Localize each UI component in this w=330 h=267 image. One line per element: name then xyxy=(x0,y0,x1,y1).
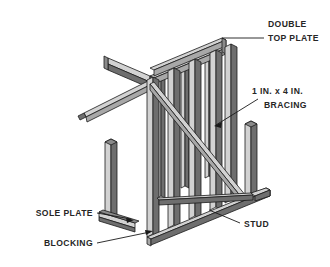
wall-framing-illustration: DOUBLE TOP PLATE 1 IN. x 4 IN. BRACING S… xyxy=(0,0,330,267)
right-return-stud xyxy=(245,121,257,196)
framing-diagram-container: DOUBLE TOP PLATE 1 IN. x 4 IN. BRACING S… xyxy=(0,0,330,267)
stud xyxy=(210,50,222,210)
left-return-stud xyxy=(105,139,117,217)
blocking-label: BLOCKING xyxy=(44,238,93,248)
sole-plate-left-end xyxy=(147,237,151,246)
stud-label: STUD xyxy=(244,219,269,229)
bracing-label-line2: BRACING xyxy=(264,100,307,110)
corner-post-stud xyxy=(147,77,159,237)
double-top-plate-label-line1: DOUBLE xyxy=(268,19,307,29)
sole-plate-label: SOLE PLATE xyxy=(36,208,93,218)
bracing-label-line1: 1 IN. x 4 IN. xyxy=(252,86,303,96)
double-top-plate-label-line2: TOP PLATE xyxy=(268,33,319,43)
